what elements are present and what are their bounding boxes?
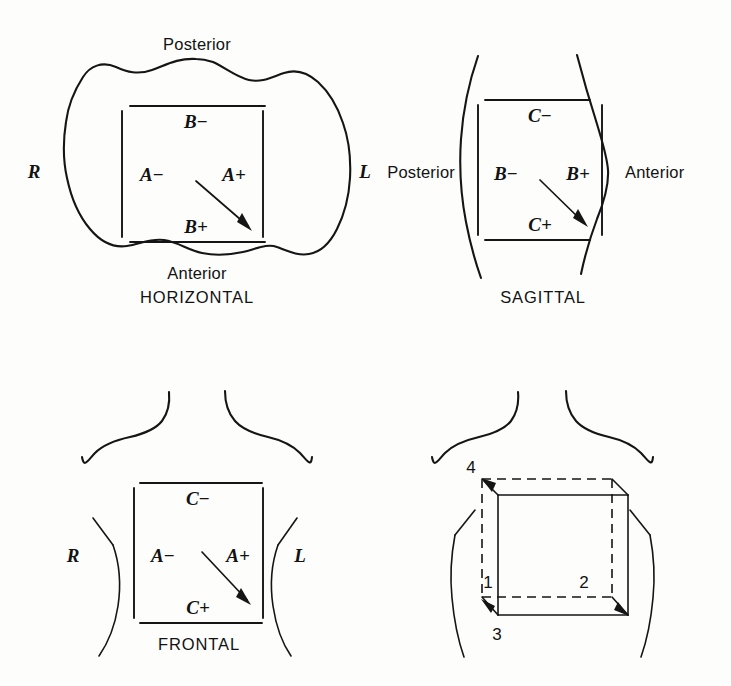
anatomical-planes-figure: Posterior Anterior HORIZONTAL R L B− B+ … — [0, 0, 731, 686]
panel-horizontal: Posterior Anterior HORIZONTAL R L B− B+ … — [27, 35, 371, 306]
sagittal-b-plus-label: B+ — [565, 163, 590, 184]
frontal-c-plus-label: C+ — [186, 597, 210, 618]
cube-left-shoulder — [432, 392, 518, 463]
frontal-left-side-curve — [99, 545, 120, 656]
horizontal-anterior-label: Anterior — [167, 264, 227, 282]
frontal-left-label: L — [293, 545, 306, 566]
cube-label-2: 2 — [579, 573, 588, 592]
sagittal-c-plus-label: C+ — [528, 214, 552, 235]
horizontal-a-minus-label: A− — [139, 164, 164, 185]
panel-cube: 4 1 2 3 — [432, 391, 654, 657]
horizontal-b-minus-label: B− — [183, 111, 208, 132]
cube-right-side-curve — [641, 535, 654, 657]
frontal-left-shoulder — [82, 392, 169, 463]
sagittal-caption: SAGITTAL — [500, 288, 586, 306]
horizontal-caption: HORIZONTAL — [140, 288, 254, 306]
frontal-right-armpit — [278, 518, 297, 545]
cube-corner2-arrowhead — [614, 602, 629, 616]
cube-corner3-arrowhead — [481, 599, 495, 613]
frontal-left-armpit — [93, 518, 113, 545]
cube-label-4: 4 — [466, 458, 475, 477]
frontal-a-minus-label: A− — [150, 545, 175, 566]
horizontal-arrow-head — [237, 213, 252, 231]
sagittal-anterior-label: Anterior — [625, 163, 685, 181]
cube-left-side-curve — [451, 535, 464, 657]
frontal-c-minus-label: C− — [186, 488, 210, 509]
sagittal-b-minus-label: B− — [493, 163, 518, 184]
horizontal-posterior-label: Posterior — [163, 35, 231, 53]
frontal-a-plus-label: A+ — [225, 545, 250, 566]
sagittal-arrow-head — [573, 209, 588, 227]
cube-right-armpit — [630, 510, 650, 535]
cube-label-1: 1 — [483, 573, 492, 592]
horizontal-left-label: L — [358, 161, 371, 182]
sagittal-c-minus-label: C− — [528, 105, 552, 126]
sagittal-posterior-label: Posterior — [387, 163, 455, 181]
frontal-right-label: R — [66, 545, 80, 566]
cube-depth-edge-top-right — [612, 479, 628, 495]
cube-right-shoulder — [566, 391, 653, 462]
cube-label-3: 3 — [492, 625, 501, 644]
horizontal-a-plus-label: A+ — [221, 164, 246, 185]
frontal-right-shoulder — [225, 391, 312, 462]
frontal-right-side-curve — [271, 545, 291, 656]
horizontal-right-label: R — [27, 161, 41, 182]
horizontal-b-plus-label: B+ — [183, 216, 208, 237]
figure-page: Posterior Anterior HORIZONTAL R L B− B+ … — [0, 0, 731, 686]
frontal-caption: FRONTAL — [158, 635, 240, 653]
panel-frontal: R L FRONTAL C− C+ A− A+ — [66, 391, 312, 656]
panel-sagittal: Posterior Anterior SAGITTAL C− C+ B− B+ — [387, 55, 685, 306]
cube-left-armpit — [455, 510, 475, 535]
